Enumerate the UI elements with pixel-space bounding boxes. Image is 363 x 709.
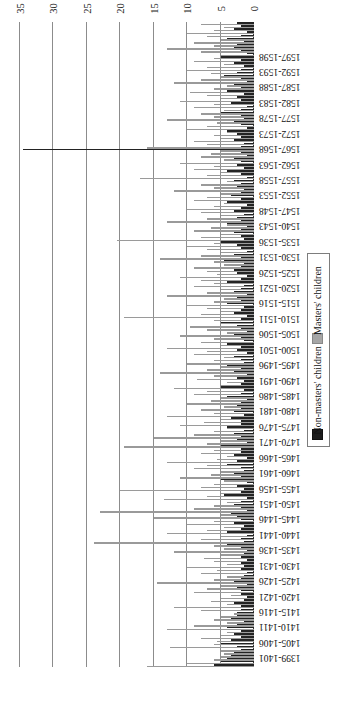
bar-nonmasters	[227, 427, 254, 428]
bar-masters	[214, 579, 254, 580]
bar-row	[20, 266, 254, 269]
bar-masters	[214, 413, 254, 414]
bar-row	[20, 544, 254, 547]
bar-nonmasters	[241, 538, 254, 539]
value-tick-label: 20	[115, 0, 126, 23]
bar-row	[20, 201, 254, 204]
bar-row	[20, 340, 254, 343]
bar-masters	[194, 169, 254, 170]
bar-nonmasters	[231, 618, 254, 619]
bar-rows	[20, 22, 254, 667]
bar-nonmasters	[234, 180, 254, 181]
bar-nonmasters	[221, 445, 254, 446]
bar-masters	[201, 539, 254, 540]
bar-nonmasters	[247, 352, 254, 353]
bar-row	[20, 411, 254, 414]
bar-nonmasters	[231, 639, 254, 640]
category-label: 1582-1583	[259, 98, 301, 108]
bar-nonmasters	[244, 285, 254, 286]
bar-masters	[214, 206, 254, 207]
bar-row	[20, 377, 254, 380]
bar-masters	[194, 200, 254, 201]
bar-row	[20, 56, 254, 59]
bar-masters	[214, 545, 254, 546]
bar-masters	[227, 132, 254, 133]
bar-row	[20, 130, 254, 133]
bar-masters	[207, 391, 254, 392]
bar-row	[20, 102, 254, 105]
category-label: 1415-1416	[259, 607, 301, 617]
bar-row	[20, 241, 254, 244]
bar-nonmasters	[247, 275, 254, 276]
bar-row	[20, 167, 254, 170]
bar-masters	[221, 616, 254, 617]
bar-row	[20, 507, 254, 510]
bar-masters	[221, 39, 254, 40]
bar-masters	[217, 570, 254, 571]
bar-nonmasters	[237, 615, 254, 616]
bar-masters	[207, 144, 254, 145]
bar-masters	[167, 533, 254, 534]
bar-nonmasters	[231, 195, 254, 196]
bar-row	[20, 466, 254, 469]
bar-row	[20, 195, 254, 198]
bar-row	[20, 602, 254, 605]
bar-nonmasters	[241, 636, 254, 637]
bar-masters	[180, 277, 254, 278]
bar-masters	[221, 234, 254, 235]
bar-row	[20, 226, 254, 229]
category-label: 1455-1456	[259, 484, 301, 494]
bar-masters	[174, 607, 254, 608]
bar-nonmasters	[241, 451, 254, 452]
bar-nonmasters	[244, 541, 254, 542]
bar-row	[20, 306, 254, 309]
bar-row	[20, 220, 254, 223]
bar-masters	[214, 659, 254, 660]
bar-nonmasters	[241, 507, 254, 508]
bar-masters	[214, 376, 254, 377]
bar-row	[20, 642, 254, 645]
bar-row	[20, 198, 254, 201]
bar-masters	[221, 635, 254, 636]
category-label: 1535-1536	[259, 237, 301, 247]
bar-nonmasters	[244, 565, 254, 566]
bar-masters	[224, 527, 254, 528]
bar-masters	[227, 382, 254, 383]
bar-nonmasters	[247, 535, 254, 536]
bar-nonmasters	[241, 220, 254, 221]
bar-row	[20, 639, 254, 642]
bar-row	[20, 571, 254, 574]
bar-nonmasters	[227, 464, 254, 465]
bar-nonmasters	[237, 96, 254, 97]
bar-masters	[174, 190, 254, 191]
bar-row	[20, 31, 254, 34]
category-label: 1515-1516	[259, 298, 301, 308]
bar-row	[20, 275, 254, 278]
bar-masters	[221, 150, 254, 151]
bar-row	[20, 41, 254, 44]
bar-row	[20, 253, 254, 256]
bar-row	[20, 139, 254, 142]
bar-row	[20, 204, 254, 207]
bar-row	[20, 516, 254, 519]
bar-row	[20, 68, 254, 71]
category-label: 1410-1411	[259, 622, 300, 632]
bar-row	[20, 448, 254, 451]
bar-row	[20, 287, 254, 290]
bar-row	[20, 361, 254, 364]
bar-nonmasters	[241, 528, 254, 529]
bar-nonmasters	[234, 28, 254, 29]
bar-nonmasters	[244, 238, 254, 239]
bar-row	[20, 605, 254, 608]
bar-masters	[187, 663, 254, 664]
bar-row	[20, 44, 254, 47]
category-label: 1495-1496	[259, 360, 301, 370]
bar-nonmasters	[234, 210, 254, 211]
bar-masters	[167, 295, 254, 296]
bar-row	[20, 442, 254, 445]
value-tick-label: 30	[48, 0, 59, 23]
bar-nonmasters	[241, 109, 254, 110]
bar-row	[20, 358, 254, 361]
bar-row	[20, 596, 254, 599]
bar-masters	[201, 51, 254, 52]
